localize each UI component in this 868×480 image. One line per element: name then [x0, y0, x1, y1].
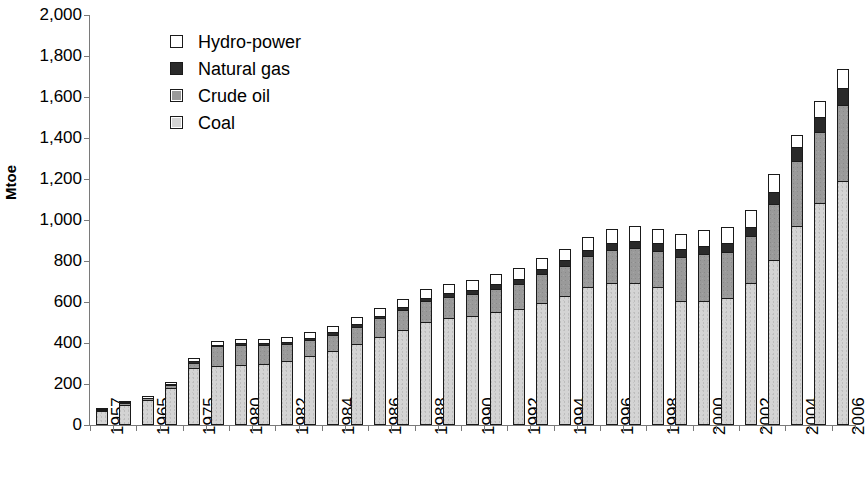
y-axis-tick [84, 384, 90, 385]
y-axis-tick-label: 200 [14, 375, 82, 392]
bar-segment-natural-gas [559, 260, 571, 267]
bar-2005 [814, 102, 826, 425]
bar-segment-hydro-power [582, 237, 594, 251]
x-axis-tick [345, 425, 346, 431]
y-axis-tick-label: 1,800 [14, 47, 82, 64]
bar-segment-coal [119, 405, 131, 425]
bar-1995 [582, 238, 594, 425]
bar-segment-natural-gas [652, 243, 664, 251]
bar-1990 [466, 281, 478, 425]
bar-segment-hydro-power [351, 317, 363, 325]
bar-segment-coal [188, 368, 200, 425]
bar-1991 [490, 275, 502, 425]
bar-segment-crude-oil [397, 310, 409, 330]
legend-swatch-coal-icon [170, 116, 183, 129]
bar-segment-hydro-power [397, 299, 409, 308]
bar-segment-crude-oil [559, 266, 571, 297]
bar-segment-crude-oil [582, 256, 594, 288]
bar-segment-coal [466, 316, 478, 425]
bar-segment-crude-oil [721, 252, 733, 299]
bar-1970 [165, 383, 177, 425]
x-axis-tick [275, 425, 276, 431]
bar-segment-crude-oil [606, 250, 618, 284]
bar-segment-coal [281, 361, 293, 425]
x-axis-tick [739, 425, 740, 431]
bar-segment-hydro-power [606, 229, 618, 244]
bar-1997 [629, 227, 641, 425]
bar-segment-crude-oil [281, 344, 293, 362]
legend: Hydro-power Natural gas Crude oil Coal [170, 28, 301, 136]
bar-segment-hydro-power [698, 230, 710, 247]
bar-segment-crude-oil [513, 284, 525, 311]
bar-2001 [721, 228, 733, 425]
x-axis-tick [252, 425, 253, 431]
bar-segment-hydro-power [327, 326, 339, 333]
bar-segment-hydro-power [791, 135, 803, 148]
bar-segment-coal [814, 203, 826, 425]
bar-segment-crude-oil [791, 161, 803, 228]
bar-segment-crude-oil [536, 274, 548, 304]
x-axis-tick [670, 425, 671, 431]
bar-segment-crude-oil [837, 105, 849, 182]
y-axis-tick [84, 56, 90, 57]
x-axis-tick [183, 425, 184, 431]
bar-segment-coal [559, 296, 571, 425]
bar-segment-hydro-power [513, 268, 525, 280]
bar-segment-coal [675, 301, 687, 425]
bar-1988 [420, 290, 432, 425]
y-axis-tick-label: 600 [14, 293, 82, 310]
x-axis-tick [809, 425, 810, 431]
legend-item-coal: Coal [170, 109, 301, 136]
x-axis-tick [600, 425, 601, 431]
x-axis-tick [693, 425, 694, 431]
bar-1989 [443, 285, 455, 425]
y-axis-tick [84, 220, 90, 221]
x-axis-tick [554, 425, 555, 431]
y-axis-tick-label: 1,400 [14, 129, 82, 146]
bar-segment-coal [258, 364, 270, 425]
bar-segment-coal [768, 260, 780, 425]
bar-1994 [559, 250, 571, 425]
x-axis-tick [484, 425, 485, 431]
y-axis-tick [84, 302, 90, 303]
x-axis-tick [461, 425, 462, 431]
bar-segment-natural-gas [606, 243, 618, 251]
bar-segment-crude-oil [420, 301, 432, 323]
y-axis-tick-label: 2,000 [14, 6, 82, 23]
legend-label-natural-gas: Natural gas [198, 60, 290, 78]
y-axis-tick [84, 179, 90, 180]
bar-segment-hydro-power [466, 280, 478, 291]
bar-1999 [675, 235, 687, 425]
bar-segment-crude-oil [466, 294, 478, 318]
bar-1975 [188, 359, 200, 425]
bar-segment-crude-oil [745, 236, 757, 283]
bar-segment-hydro-power [629, 226, 641, 241]
x-axis-tick [229, 425, 230, 431]
bar-segment-coal [536, 303, 548, 425]
bar-1965 [142, 397, 154, 425]
bar-segment-coal [721, 298, 733, 425]
bar-segment-coal [698, 301, 710, 425]
legend-label-crude-oil: Crude oil [198, 87, 270, 105]
bar-segment-hydro-power [96, 408, 108, 410]
bar-segment-natural-gas [837, 88, 849, 106]
bar-segment-natural-gas [791, 147, 803, 161]
bar-segment-hydro-power [721, 227, 733, 244]
legend-item-crude-oil: Crude oil [170, 82, 301, 109]
y-axis-tick [84, 15, 90, 16]
y-axis-tick-label: 0 [14, 416, 82, 433]
bar-segment-crude-oil [211, 346, 223, 366]
bar-2003 [768, 175, 780, 425]
bar-1985 [351, 318, 363, 425]
bar-segment-coal [652, 287, 664, 425]
bar-1957 [96, 410, 108, 425]
bar-segment-natural-gas [698, 246, 710, 255]
bar-segment-coal [397, 330, 409, 425]
bar-1978 [211, 342, 223, 425]
bar-segment-crude-oil [490, 289, 502, 314]
bar-segment-hydro-power [211, 341, 223, 346]
legend-label-coal: Coal [198, 114, 235, 132]
bar-segment-crude-oil [374, 318, 386, 337]
y-axis-tick-label: 1,000 [14, 211, 82, 228]
